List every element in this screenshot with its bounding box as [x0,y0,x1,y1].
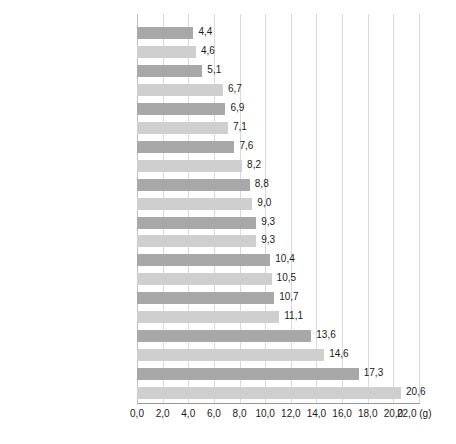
bar-value-label: 10,7 [279,290,298,304]
bar-row: 사과, 100g11,1 [137,308,419,327]
bar-value-label: 5,1 [207,63,221,77]
bar-rows: 초콜렛, 10g4,4요구르트(호상), 100g4,6귤, 100g5,1국수… [137,14,419,403]
bar-value-label: 6,7 [228,82,242,96]
bar-row: 케이크, 90g20,6 [137,384,419,403]
bar-row: 탄산음료, 100g10,7 [137,289,419,308]
bar [137,27,193,39]
bar-row: 초콜렛, 10g4,4 [137,24,419,43]
bar-row: 우유, 200g8,2 [137,157,419,176]
bar-row: 감, 100g10,5 [137,270,419,289]
bar-value-label: 9,3 [261,233,275,247]
bar-row: 수박, 150g7,6 [137,138,419,157]
bar-value-label: 11,1 [284,309,303,323]
bar-row: 국수, 90g6,7 [137,81,419,100]
bar [137,122,228,134]
bar-value-label: 7,6 [239,139,253,153]
bar-row: 귤, 100g5,1 [137,62,419,81]
bar-value-label: 9,3 [261,215,275,229]
bar-row: 포도, 100g10,4 [137,251,419,270]
bar [137,387,401,399]
bar [137,46,196,58]
plot-area: 초콜렛, 10g4,4요구르트(호상), 100g4,6귤, 100g5,1국수… [137,14,419,403]
bar-value-label: 10,4 [275,252,294,266]
bar-row: 과일음료, 100g7,1 [137,119,419,138]
bar [137,254,270,266]
bar-row: 고구마, 70g6,9 [137,100,419,119]
bar-value-label: 4,4 [198,25,212,39]
bar [137,84,223,96]
bar [137,235,256,247]
bar-value-label: 9,0 [257,196,271,210]
bar-chart: 초콜렛, 10g4,4요구르트(호상), 100g4,6귤, 100g5,1국수… [0,0,456,444]
x-tick-label: 22,0 (g) [397,407,456,421]
bar-row: 설탕, 10g9,3 [137,232,419,251]
bar-row: 사이다, 100g8,8 [137,176,419,195]
bar [137,311,279,323]
x-axis-line [137,403,420,404]
bar [137,292,274,304]
bar [137,273,272,285]
bar-row: 바나나, 100g14,6 [137,346,419,365]
bar [137,330,311,342]
bar [137,217,256,229]
bar-row: 콜라, 100g9,0 [137,195,419,214]
bar-value-label: 4,6 [201,44,215,58]
bar [137,368,359,380]
bar-value-label: 10,5 [277,271,296,285]
bar [137,160,242,172]
bar-row: 아이스크림, 100g17,3 [137,365,419,384]
bar [137,65,202,77]
gridline-22-0 [419,14,420,403]
bar [137,198,252,210]
bar [137,179,250,191]
bar-value-label: 20,6 [406,385,425,399]
bar-value-label: 14,6 [329,347,348,361]
bar-value-label: 13,6 [316,328,335,342]
bar [137,349,324,361]
bar [137,141,234,153]
bar-value-label: 8,2 [247,158,261,172]
bar-value-label: 8,8 [255,177,269,191]
bar-row: 요구르트(호상), 100g4,6 [137,43,419,62]
bar [137,103,225,115]
bar-row: 참외, 150g13,6 [137,327,419,346]
bar-value-label: 7,1 [233,120,247,134]
bar-value-label: 17,3 [364,366,383,380]
bar-row: 복숭아, 100g9,3 [137,214,419,233]
bar-value-label: 6,9 [230,101,244,115]
